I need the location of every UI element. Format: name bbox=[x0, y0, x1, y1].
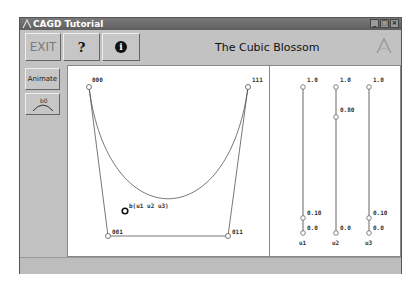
control-point-001[interactable] bbox=[106, 234, 111, 239]
control-point-000[interactable] bbox=[87, 85, 92, 90]
status-bar bbox=[20, 257, 401, 274]
slider-u1-bottom: 0.0 bbox=[307, 224, 318, 231]
app-title: The Cubic Blossom bbox=[215, 41, 319, 54]
info-icon: i bbox=[115, 41, 127, 53]
exit-button[interactable]: EXIT bbox=[25, 33, 61, 61]
drawing-canvas[interactable]: 000 001 011 111 b(u1 u2 u3) 1.0 1.0 1.0 … bbox=[67, 65, 401, 257]
control-point-111[interactable] bbox=[246, 85, 251, 90]
control-point-011[interactable] bbox=[226, 234, 231, 239]
slider-u2-top: 1.0 bbox=[340, 76, 351, 83]
slider-u1-name: u1 bbox=[299, 239, 306, 246]
bezier-button[interactable]: b0 bbox=[25, 93, 60, 115]
label-001: 001 bbox=[112, 228, 123, 235]
slider-u3-handle[interactable] bbox=[367, 216, 372, 221]
title-bar[interactable]: CAGD Tutorial _ □ × bbox=[20, 18, 401, 30]
slider-u3-bottom: 0.0 bbox=[373, 224, 384, 231]
svg-text:b0: b0 bbox=[40, 97, 48, 104]
slider-u2-value: 0.80 bbox=[340, 106, 354, 113]
app-logo-icon bbox=[375, 37, 393, 55]
help-button[interactable]: ? bbox=[63, 33, 100, 61]
window-title: CAGD Tutorial bbox=[33, 18, 103, 30]
app-logo-icon bbox=[22, 19, 32, 29]
slider-u3-name: u3 bbox=[365, 239, 372, 246]
minimize-button[interactable]: _ bbox=[370, 19, 379, 28]
slider-u3-top: 1.0 bbox=[373, 76, 384, 83]
slider-u2-handle[interactable] bbox=[334, 115, 339, 120]
slider-u1-handle[interactable] bbox=[301, 216, 306, 221]
sidebar: Animate b0 bbox=[20, 65, 66, 257]
bezier-curve-icon: b0 bbox=[31, 95, 55, 113]
blossom-point[interactable] bbox=[122, 208, 128, 214]
blossom-label: b(u1 u2 u3) bbox=[129, 202, 169, 209]
label-011: 011 bbox=[232, 228, 243, 235]
label-000: 000 bbox=[92, 76, 103, 83]
maximize-button[interactable]: □ bbox=[380, 19, 389, 28]
app-window: CAGD Tutorial _ □ × EXIT ? i The Cubic B… bbox=[19, 17, 402, 274]
info-button[interactable]: i bbox=[102, 33, 140, 61]
slider-u1-value: 0.10 bbox=[307, 209, 321, 216]
label-111: 111 bbox=[252, 76, 263, 83]
slider-u3-value: 0.10 bbox=[373, 209, 387, 216]
slider-u2-bottom: 0.0 bbox=[340, 224, 351, 231]
slider-u1-top: 1.0 bbox=[307, 76, 318, 83]
close-button[interactable]: × bbox=[390, 19, 399, 28]
slider-u2-name: u2 bbox=[332, 239, 339, 246]
animate-button[interactable]: Animate bbox=[25, 68, 60, 90]
toolbar: EXIT ? i The Cubic Blossom bbox=[20, 30, 401, 64]
